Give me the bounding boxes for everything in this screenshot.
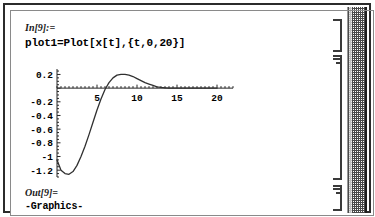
screenshot-root: In[9]:= plot1=Plot[x[t],{t,0,20}] 510152… — [0, 0, 375, 217]
cell-bracket-tick-bottom — [333, 188, 340, 190]
svg-text:15: 15 — [171, 93, 183, 104]
output-cell-label: Out[9]= — [25, 187, 58, 198]
vertical-scrollbar[interactable] — [347, 7, 367, 213]
notebook-content-area[interactable]: In[9]:= plot1=Plot[x[t],{t,0,20}] 510152… — [11, 11, 351, 215]
graphics-output-plot[interactable]: 51015200.2-0.2-0.4-0.6-0.8-1-1.2 — [21, 61, 241, 181]
input-cell-label: In[9]:= — [25, 22, 55, 33]
svg-text:-1: -1 — [42, 152, 54, 163]
svg-text:-0.6: -0.6 — [30, 125, 53, 136]
svg-text:-0.4: -0.4 — [30, 111, 53, 122]
cell-bracket-tick-top — [333, 58, 340, 60]
output-cell-text: -Graphics- — [25, 201, 83, 212]
cell-bracket-output-graphics[interactable] — [333, 55, 342, 180]
notebook-window: In[9]:= plot1=Plot[x[t],{t,0,20}] 510152… — [3, 3, 371, 213]
svg-text:-0.2: -0.2 — [30, 97, 53, 108]
svg-text:-0.8: -0.8 — [30, 138, 53, 149]
plot-canvas: 51015200.2-0.2-0.4-0.6-0.8-1-1.2 — [21, 61, 241, 181]
input-cell-code[interactable]: plot1=Plot[x[t],{t,0,20}] — [25, 37, 185, 49]
svg-text:10: 10 — [131, 93, 143, 104]
svg-text:0.2: 0.2 — [36, 70, 53, 81]
cell-bracket-input[interactable] — [333, 19, 342, 52]
svg-text:20: 20 — [211, 93, 223, 104]
svg-text:-1.2: -1.2 — [30, 166, 53, 177]
